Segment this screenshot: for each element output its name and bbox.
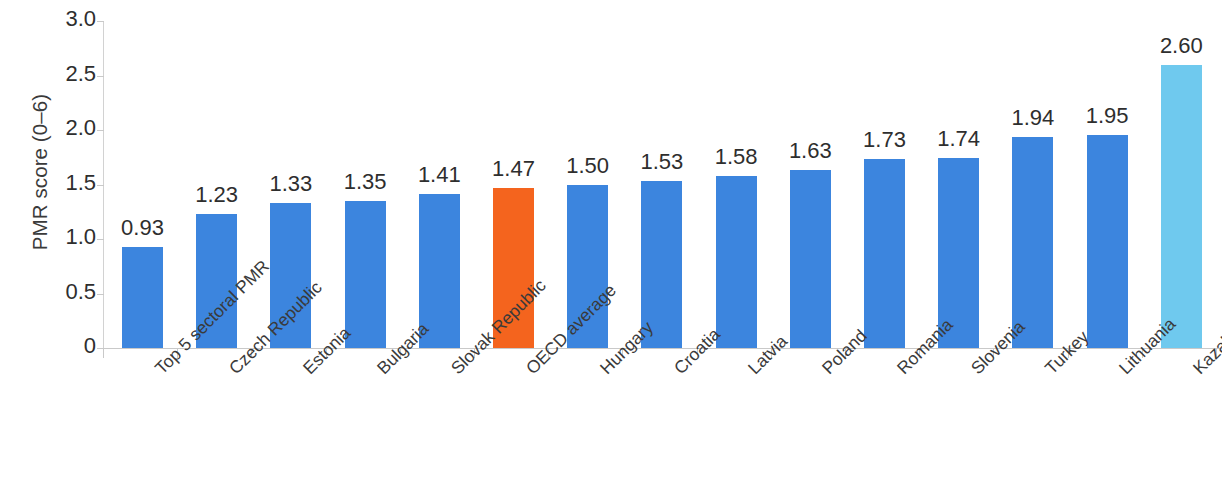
x-axis-category-label: Romania (893, 364, 908, 379)
y-tick-mark (97, 21, 104, 22)
y-tick-label: 1.0 (20, 224, 96, 250)
x-axis-line (103, 348, 1222, 349)
x-axis-category-label: Top 5 sectoral PMR (151, 364, 166, 379)
x-axis-category-label: Lithuania (1115, 364, 1130, 379)
x-axis-category-label: Bulgaria (373, 364, 388, 379)
bar-value-label: 1.23 (181, 182, 252, 208)
x-tick-mark (103, 349, 104, 358)
y-tick-label: 2.0 (20, 115, 96, 141)
bar[interactable] (122, 247, 163, 348)
bar[interactable] (716, 176, 757, 348)
bar[interactable] (1087, 135, 1128, 348)
y-tick-label: 0 (20, 333, 96, 359)
bar-value-label: 1.73 (849, 127, 920, 153)
x-axis-category-label: Czech Republic (225, 364, 240, 379)
bar-value-label: 0.93 (107, 215, 178, 241)
bar[interactable] (1012, 137, 1053, 348)
y-tick-label: 3.0 (20, 6, 96, 32)
x-axis-category-label: Hungary (596, 364, 611, 379)
x-axis-category-label: Kazakhstan (1189, 364, 1204, 379)
bar-value-label: 2.60 (1146, 33, 1217, 59)
x-axis-category-label: Slovak Republic (447, 364, 462, 379)
bar-value-label: 1.33 (255, 171, 326, 197)
bar-value-label: 1.95 (1072, 103, 1143, 129)
bar-value-label: 1.74 (923, 126, 994, 152)
y-tick-mark (97, 185, 104, 186)
x-axis-category-label: Poland (818, 364, 833, 379)
y-tick-label: 0.5 (20, 279, 96, 305)
x-axis-category-label: Turkey (1041, 364, 1056, 379)
bar-value-label: 1.35 (330, 169, 401, 195)
y-tick-mark (97, 239, 104, 240)
bar-value-label: 1.63 (775, 138, 846, 164)
x-axis-category-label: Croatia (670, 364, 685, 379)
bar[interactable] (1161, 65, 1202, 348)
x-axis-category-label: Estonia (299, 364, 314, 379)
bar[interactable] (790, 170, 831, 348)
bar[interactable] (864, 159, 905, 348)
y-tick-label: 2.5 (20, 61, 96, 87)
bar[interactable] (345, 201, 386, 348)
bar-value-label: 1.47 (478, 156, 549, 182)
bar-value-label: 1.50 (552, 153, 623, 179)
x-axis-category-label: OECD average (522, 364, 537, 379)
bar-value-label: 1.41 (404, 162, 475, 188)
x-axis-category-label: Latvia (744, 364, 759, 379)
bar-value-label: 1.58 (701, 144, 772, 170)
y-tick-mark (97, 76, 104, 77)
y-tick-label: 1.5 (20, 170, 96, 196)
y-tick-mark (97, 130, 104, 131)
bar-chart: PMR score (0–6) 3.02.52.01.51.00.50 0.93… (0, 0, 1222, 491)
bar-value-label: 1.53 (626, 149, 697, 175)
bar-value-label: 1.94 (997, 105, 1068, 131)
x-axis-category-label: Slovenia (967, 364, 982, 379)
y-tick-mark (97, 294, 104, 295)
